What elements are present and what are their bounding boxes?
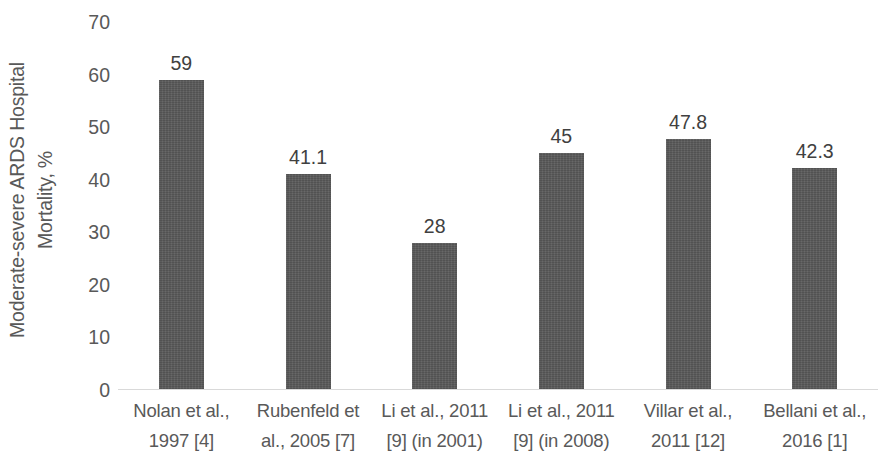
x-axis-category-label-line: Li et al., 2011 <box>371 396 498 426</box>
bar[interactable] <box>286 174 331 390</box>
bar-slot: 59 <box>118 22 245 390</box>
x-axis-category-label: Rubenfeld etal., 2005 [7] <box>245 396 372 466</box>
y-axis-tick-label: 20 <box>88 275 110 295</box>
x-axis-baseline <box>118 389 878 390</box>
bar-slot: 28 <box>371 22 498 390</box>
bar-chart: Moderate-severe ARDS Hospital Mortality,… <box>0 0 885 475</box>
x-axis-category-label-line: Villar et al., <box>625 396 752 426</box>
y-axis-tick-label: 60 <box>88 65 110 85</box>
y-axis-tick-label: 50 <box>88 117 110 137</box>
y-axis-tick-labels: 706050403020100 <box>62 0 118 400</box>
bar[interactable] <box>666 139 711 390</box>
bar-value-label: 28 <box>371 215 498 237</box>
y-axis-tick-label: 10 <box>88 327 110 347</box>
x-axis-category-label: Villar et al.,2011 [12] <box>625 396 752 466</box>
x-axis-category-label: Bellani et al.,2016 [1] <box>751 396 878 466</box>
bar[interactable] <box>792 168 837 390</box>
x-axis-category-labels: Nolan et al.,1997 [4]Rubenfeld etal., 20… <box>118 396 878 466</box>
bar-slot: 41.1 <box>245 22 372 390</box>
bar-slot: 42.3 <box>751 22 878 390</box>
x-axis-category-label-line: [9] (in 2001) <box>371 426 498 456</box>
x-axis-category-label-line: Li et al., 2011 <box>498 396 625 426</box>
bar-series: 5941.1284547.842.3 <box>118 22 878 390</box>
x-axis-category-label-line: [9] (in 2008) <box>498 426 625 456</box>
y-axis-tick-label: 40 <box>88 170 110 190</box>
y-axis-tick-label: 70 <box>88 12 110 32</box>
bar-slot: 45 <box>498 22 625 390</box>
x-axis-category-label: Li et al., 2011[9] (in 2001) <box>371 396 498 466</box>
bar[interactable] <box>159 80 204 390</box>
y-axis-title-line-2: Mortality, % <box>31 62 59 338</box>
y-axis-title: Moderate-severe ARDS Hospital Mortality,… <box>0 0 62 400</box>
x-axis-category-label-line: Rubenfeld et <box>245 396 372 426</box>
plot-area: 5941.1284547.842.3 <box>118 22 878 390</box>
y-axis-title-line-1: Moderate-severe ARDS Hospital <box>3 62 31 338</box>
x-axis-category-label-line: 2011 [12] <box>625 426 752 456</box>
x-axis-category-label-line: Bellani et al., <box>751 396 878 426</box>
bar-value-label: 45 <box>498 125 625 147</box>
x-axis-category-label-line: Nolan et al., <box>118 396 245 426</box>
x-axis-category-label-line: 1997 [4] <box>118 426 245 456</box>
bar-value-label: 41.1 <box>245 146 372 168</box>
bar-value-label: 42.3 <box>751 140 878 162</box>
bar[interactable] <box>412 243 457 390</box>
bar[interactable] <box>539 153 584 390</box>
bar-slot: 47.8 <box>625 22 752 390</box>
x-axis-category-label: Li et al., 2011[9] (in 2008) <box>498 396 625 466</box>
bar-value-label: 47.8 <box>625 111 752 133</box>
x-axis-category-label-line: 2016 [1] <box>751 426 878 456</box>
x-axis-category-label: Nolan et al.,1997 [4] <box>118 396 245 466</box>
y-axis-tick-label: 30 <box>88 222 110 242</box>
y-axis-tick-label: 0 <box>99 380 110 400</box>
x-axis-category-label-line: al., 2005 [7] <box>245 426 372 456</box>
bar-value-label: 59 <box>118 52 245 74</box>
